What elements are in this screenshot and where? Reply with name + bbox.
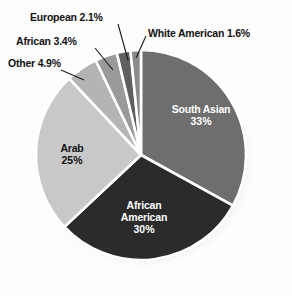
- pie-label-south-asian-name: South Asian: [155, 104, 247, 116]
- pie-label-south-asian: South Asian 33%: [155, 104, 247, 128]
- pie-label-south-asian-value: 33%: [155, 116, 247, 128]
- pie-label-arab-name: Arab: [36, 143, 108, 155]
- pie-label-arab-value: 25%: [36, 155, 108, 167]
- pie-label-white-american: White American 1.6%: [148, 28, 250, 39]
- pie-label-african-american-name-line1: African: [98, 200, 190, 212]
- pie-label-african-american: African American 30%: [98, 200, 190, 235]
- chart-canvas: European 2.1% African 3.4% Other 4.9% Wh…: [0, 0, 292, 296]
- pie-label-other: Other 4.9%: [8, 58, 61, 69]
- pie-label-european: European 2.1%: [30, 12, 103, 23]
- pie-label-african-american-value: 30%: [98, 224, 190, 236]
- pie-label-arab: Arab 25%: [36, 143, 108, 167]
- pie-label-african-american-name-line2: American: [98, 212, 190, 224]
- pie-label-african: African 3.4%: [16, 36, 77, 47]
